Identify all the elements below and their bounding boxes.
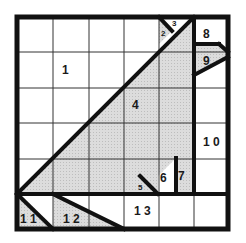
- label-4: 4: [132, 98, 139, 112]
- label-3: 3: [172, 19, 177, 28]
- label-9: 9: [203, 54, 210, 68]
- label-1: 1: [62, 63, 69, 77]
- label-13: 1 3: [134, 204, 151, 218]
- label-6: 6: [160, 171, 167, 185]
- label-10: 1 0: [203, 135, 220, 149]
- label-7: 7: [178, 169, 185, 183]
- label-8: 8: [203, 27, 210, 41]
- label-11: 1 1: [20, 212, 37, 226]
- label-2: 2: [161, 29, 166, 38]
- label-5: 5: [138, 183, 143, 192]
- puzzle-diagram: 1 2 3 4 5 6 7 8 9 1 0 1 1 1 2 1 3: [0, 0, 246, 243]
- label-12: 1 2: [63, 212, 80, 226]
